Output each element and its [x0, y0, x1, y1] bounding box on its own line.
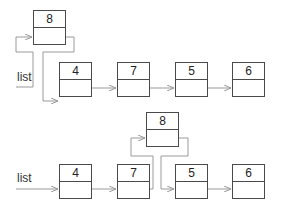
node-value: 4 — [60, 165, 91, 182]
list-label: list — [17, 171, 32, 185]
node-value: 7 — [118, 165, 149, 182]
node-5: 5 — [175, 62, 208, 97]
node-6: 6 — [232, 62, 265, 97]
node-7: 7 — [117, 62, 150, 97]
linked-list-diagram: list 8 4 7 5 6 list 8 4 7 5 6 — [0, 0, 281, 211]
node-value: 6 — [233, 165, 264, 182]
node-value: 6 — [233, 63, 264, 80]
node-value: 8 — [147, 113, 178, 130]
node-8-inserted: 8 — [146, 112, 179, 147]
node-5: 5 — [175, 164, 208, 199]
list-label: list — [17, 70, 32, 84]
node-8-new: 8 — [33, 10, 66, 45]
node-6: 6 — [232, 164, 265, 199]
node-value: 4 — [60, 63, 91, 80]
node-value: 8 — [34, 11, 65, 28]
node-7: 7 — [117, 164, 150, 199]
node-value: 5 — [176, 63, 207, 80]
node-4: 4 — [59, 164, 92, 199]
node-value: 5 — [176, 165, 207, 182]
node-4: 4 — [59, 62, 92, 97]
node-value: 7 — [118, 63, 149, 80]
